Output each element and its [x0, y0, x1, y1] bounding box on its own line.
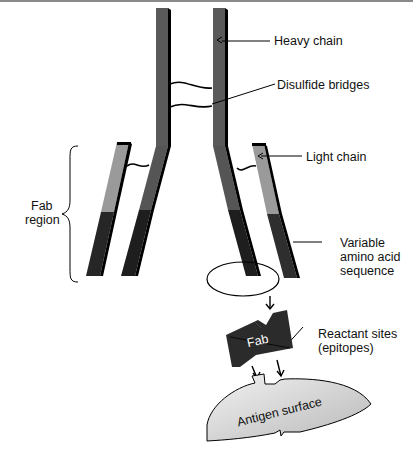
- fab-region-brace: [62, 146, 78, 282]
- reactant-sites-label-line2: (epitopes): [318, 341, 374, 355]
- left-light-chain: [86, 142, 132, 276]
- antibody-diagram: [0, 0, 413, 449]
- variable-label-line3: sequence: [340, 264, 394, 278]
- variable-region-ellipse: [207, 262, 279, 296]
- fab-region-label-line1: Fab: [31, 199, 53, 213]
- disulfide-bridges-label: Disulfide bridges: [277, 78, 369, 92]
- right-light-chain: [252, 143, 300, 278]
- variable-label-line1: Variable: [340, 236, 385, 250]
- light-chain-label: Light chain: [306, 150, 366, 164]
- arrow-down-icon: [266, 296, 274, 309]
- fab-region-label-line2: region: [25, 213, 60, 227]
- disulfide-bridges: [127, 82, 256, 170]
- reactant-sites-label-line1: Reactant sites: [318, 327, 397, 341]
- variable-label-line2: amino acid: [340, 250, 400, 264]
- heavy-chain-label: Heavy chain: [274, 34, 343, 48]
- right-heavy-chain: [213, 8, 261, 276]
